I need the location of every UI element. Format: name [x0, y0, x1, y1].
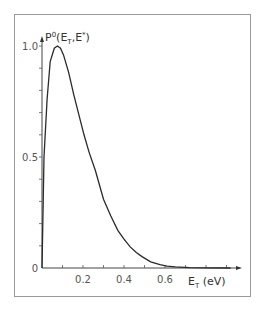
x-tick-label: 0.4	[116, 274, 132, 285]
y-title-close: )	[86, 31, 90, 44]
x-title-unit: (eV)	[199, 275, 225, 288]
y-tick-label: 0.5	[22, 152, 38, 163]
x-tick-label: 0	[32, 263, 38, 274]
chart: 00.20.40.60.51.0 P0(ET,E*) ET (eV)	[0, 0, 262, 311]
x-tick-label: 0.2	[75, 274, 91, 285]
axes	[40, 36, 242, 270]
y-tick-label: 1.0	[22, 41, 38, 52]
x-title-main: E	[188, 275, 195, 288]
x-axis-arrow	[236, 266, 242, 270]
tick-labels: 00.20.40.60.51.0	[22, 41, 173, 285]
series-line	[42, 46, 231, 268]
x-axis-title: ET (eV)	[188, 275, 226, 290]
y-title-mid: ,E	[72, 31, 82, 44]
y-title-open: (E	[56, 31, 67, 44]
y-axis-arrow	[40, 36, 44, 42]
ticks	[39, 46, 227, 268]
x-tick-label: 0.6	[157, 274, 173, 285]
y-axis-title: P0(ET,E*)	[45, 31, 90, 46]
